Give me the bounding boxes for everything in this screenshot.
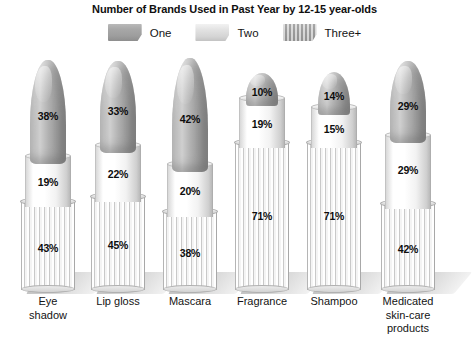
value-label-one: 10% — [232, 86, 292, 98]
value-label-one: 14% — [304, 90, 364, 102]
value-label-two: 19% — [18, 176, 78, 188]
value-label-one: 42% — [160, 113, 220, 125]
value-label-two: 22% — [88, 168, 148, 180]
value-label-one: 38% — [18, 110, 78, 122]
value-label-three-plus: 71% — [304, 210, 364, 222]
lipstick-tip-highlight — [395, 66, 412, 94]
value-label-one: 33% — [88, 105, 148, 117]
category-label-line: products — [363, 322, 453, 336]
category-label-line: Medicated — [363, 295, 453, 309]
category-label-line: skin-care — [363, 309, 453, 323]
category-label: Medicatedskin-careproducts — [363, 295, 453, 336]
value-label-three-plus: 38% — [160, 247, 220, 259]
value-label-two: 15% — [304, 123, 364, 135]
value-label-one: 29% — [378, 100, 438, 112]
value-label-three-plus: 71% — [232, 210, 292, 222]
value-label-two: 19% — [232, 118, 292, 130]
lipstick-tip-highlight — [322, 74, 337, 89]
value-label-three-plus: 43% — [18, 242, 78, 254]
value-label-two: 20% — [160, 185, 220, 197]
category-label-line: shadow — [3, 309, 93, 323]
value-label-three-plus: 42% — [378, 243, 438, 255]
lipstick-tip-highlight — [177, 65, 194, 104]
lipstick-tip-highlight — [250, 75, 265, 86]
value-label-two: 29% — [378, 164, 438, 176]
lipstick-tip-highlight — [35, 66, 52, 102]
lipstick-tip-highlight — [105, 67, 122, 98]
value-label-three-plus: 45% — [88, 239, 148, 251]
